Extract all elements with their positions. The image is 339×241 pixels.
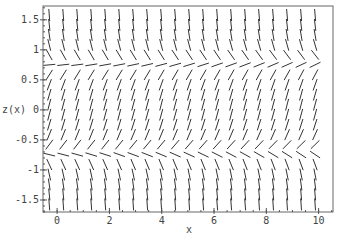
slope-segment xyxy=(46,70,52,80)
slope-segment xyxy=(268,63,279,68)
slope-segment xyxy=(202,99,205,111)
slope-segment xyxy=(118,99,121,111)
slope-segment xyxy=(311,50,318,59)
slope-segment xyxy=(132,99,135,111)
slope-segment xyxy=(255,140,263,149)
slope-segment xyxy=(103,159,108,170)
slope-segment xyxy=(62,109,65,121)
slope-segment xyxy=(88,70,94,80)
slope-segment xyxy=(89,79,93,90)
slope-segment xyxy=(75,129,80,140)
slope-segment xyxy=(243,119,247,130)
slope-segment xyxy=(62,89,65,101)
slope-segment xyxy=(200,50,207,60)
slope-segment xyxy=(298,50,305,60)
slope-segment xyxy=(188,109,191,121)
slope-segment xyxy=(131,79,135,90)
slope-segment xyxy=(43,64,55,65)
slope-segment xyxy=(271,119,275,130)
slope-segment xyxy=(117,159,122,170)
slope-segment xyxy=(159,159,164,170)
slope-segment xyxy=(47,129,52,140)
y-tick-label: 0.5 xyxy=(21,74,39,85)
slope-segment xyxy=(271,159,275,170)
slope-segment xyxy=(285,79,289,90)
slope-segment xyxy=(213,140,221,149)
slope-segment xyxy=(144,50,150,60)
slope-segment xyxy=(215,129,220,140)
slope-segment xyxy=(286,99,289,111)
slope-segment xyxy=(313,89,316,101)
slope-segment xyxy=(155,63,167,66)
slope-segment xyxy=(47,159,52,170)
slope-segment xyxy=(104,119,108,130)
slope-segment xyxy=(117,129,122,140)
slope-segment xyxy=(244,109,247,121)
slope-segment xyxy=(46,140,53,150)
slope-segment xyxy=(88,50,94,60)
slope-segment xyxy=(99,64,111,66)
slope-segment xyxy=(300,109,303,121)
slope-segment xyxy=(76,99,79,111)
slope-segment xyxy=(172,50,179,60)
slope-segment xyxy=(299,119,303,130)
slope-segment xyxy=(113,64,125,66)
slope-segment xyxy=(75,79,79,90)
slope-segment xyxy=(187,129,192,140)
slope-segment xyxy=(214,50,221,60)
slope-segment xyxy=(58,153,70,156)
slope-segment xyxy=(46,50,52,60)
slope-segment xyxy=(257,119,261,130)
slope-segment xyxy=(104,99,107,111)
slope-segment xyxy=(102,140,110,149)
slope-segment xyxy=(313,129,318,140)
slope-segment xyxy=(172,70,178,80)
slope-segment xyxy=(271,79,275,90)
slope-segment xyxy=(201,119,205,130)
slope-segment xyxy=(131,119,135,130)
slope-segment xyxy=(256,70,262,81)
slope-segment xyxy=(183,63,195,67)
slope-segment xyxy=(284,70,290,81)
slope-segment xyxy=(186,70,192,80)
y-tick-label: 1.5 xyxy=(21,14,39,25)
slope-segment xyxy=(201,129,206,140)
slope-segment xyxy=(310,151,320,158)
slope-segment xyxy=(270,50,277,60)
slope-segment xyxy=(215,79,219,90)
slope-segment xyxy=(285,159,289,170)
slope-segment xyxy=(188,99,191,111)
slope-segment xyxy=(159,79,163,90)
slope-segment xyxy=(272,109,275,121)
slope-segment xyxy=(257,129,262,140)
slope-segment xyxy=(230,109,233,121)
slope-segment xyxy=(102,50,108,60)
x-tick-label: 4 xyxy=(159,215,165,226)
slope-segment xyxy=(74,70,80,80)
y-tick-label: -1 xyxy=(27,164,39,175)
slope-segment xyxy=(243,79,247,90)
slope-segment xyxy=(169,63,181,66)
slope-segment xyxy=(270,70,276,81)
x-tick-label: 8 xyxy=(263,215,269,226)
slope-segment xyxy=(229,159,234,170)
slope-segment xyxy=(62,99,65,111)
slope-segment xyxy=(76,109,79,121)
slope-segment xyxy=(145,119,149,130)
slope-segment xyxy=(160,99,163,111)
slope-segment xyxy=(90,99,93,111)
slope-segment xyxy=(272,99,275,111)
x-axis-label: x xyxy=(186,224,192,235)
slope-segment xyxy=(284,50,291,60)
slope-segment xyxy=(171,140,179,149)
slope-segment xyxy=(159,129,164,140)
slope-segment xyxy=(229,79,233,90)
slope-segment xyxy=(282,62,293,67)
slope-segment xyxy=(104,89,107,101)
slope-segment xyxy=(117,79,121,90)
slope-segment xyxy=(243,159,247,170)
slope-segment xyxy=(216,109,219,121)
slope-segment xyxy=(186,50,193,60)
slope-segment xyxy=(258,99,261,111)
slope-segment xyxy=(128,153,139,157)
